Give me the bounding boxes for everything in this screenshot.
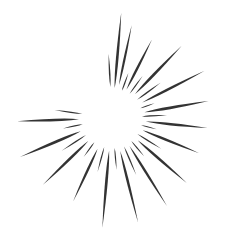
illustration-canvas: [0, 0, 228, 243]
starburst-graphic: [0, 0, 228, 243]
